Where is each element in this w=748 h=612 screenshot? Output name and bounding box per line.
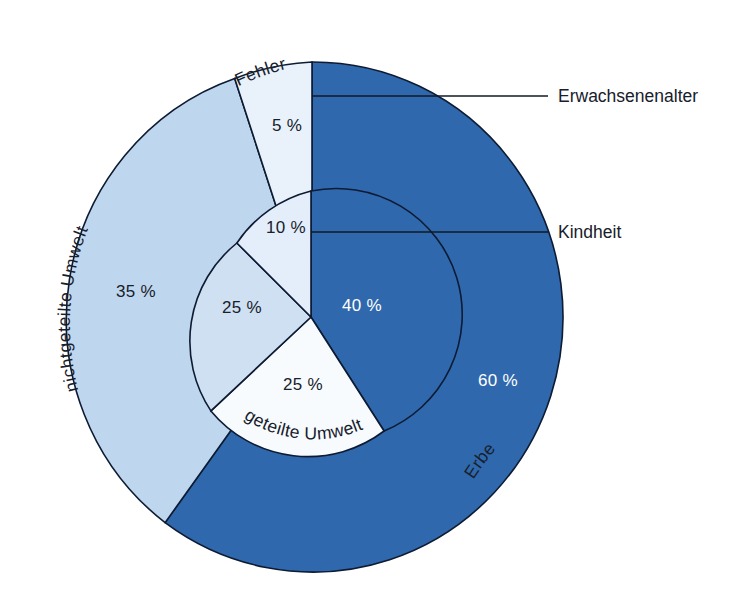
inner-label-nichtgeteilte-percent: 25 % <box>222 298 262 317</box>
outer-label-erbe-percent: 60 % <box>478 371 518 390</box>
inner-label-erbe-percent: 40 % <box>342 296 382 315</box>
inner-label-fehler-percent: 10 % <box>266 218 306 237</box>
nested-pie-chart: 60 % 35 % 5 % 40 % 25 % 25 % 10 % nichtg… <box>0 0 748 612</box>
callout-label-erwachsenenalter: Erwachsenenalter <box>558 86 698 106</box>
outer-label-fehler-percent: 5 % <box>272 116 302 135</box>
callout-label-kindheit: Kindheit <box>558 222 621 242</box>
inner-label-geteilte-percent: 25 % <box>283 375 323 394</box>
chart-canvas: 60 % 35 % 5 % 40 % 25 % 25 % 10 % nichtg… <box>0 0 748 612</box>
outer-label-nichtgeteilte-percent: 35 % <box>116 282 156 301</box>
